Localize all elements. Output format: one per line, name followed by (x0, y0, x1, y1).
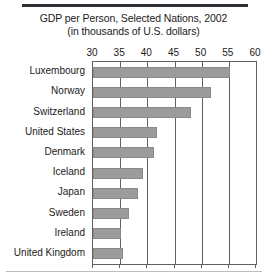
bar (93, 248, 123, 259)
chart-title-block: GDP per Person, Selected Nations, 2002 (… (0, 12, 267, 38)
chart-title: GDP per Person, Selected Nations, 2002 (0, 12, 267, 25)
y-category-label: United States (25, 126, 85, 138)
x-tick-label: 45 (168, 46, 179, 59)
y-category-label: Norway (51, 85, 85, 97)
x-axis-tick-labels: 30354045505560 (0, 46, 267, 59)
bar (93, 188, 138, 199)
x-tick-label: 50 (195, 46, 206, 59)
x-tick-label: 55 (222, 46, 233, 59)
bar (93, 228, 121, 239)
x-gridline (229, 62, 230, 264)
x-axis-tick-mark (201, 264, 202, 268)
bar (93, 67, 230, 78)
x-tick-label: 40 (141, 46, 152, 59)
chart-subtitle: (in thousands of U.S. dollars) (0, 25, 267, 38)
x-axis-tick-mark (255, 264, 256, 268)
bar (93, 168, 143, 179)
y-category-label: Sweden (49, 207, 85, 219)
plot-area (92, 61, 257, 265)
y-category-label: United Kingdom (14, 247, 85, 259)
top-divider-rule (22, 4, 248, 7)
x-tick-label: 30 (86, 46, 97, 59)
y-axis-category-labels: LuxembourgNorwaySwitzerlandUnited States… (0, 61, 88, 263)
x-axis-tick-mark (119, 264, 120, 268)
y-category-label: Luxembourg (29, 65, 85, 77)
chart-figure: GDP per Person, Selected Nations, 2002 (… (0, 0, 267, 278)
x-axis-tick-mark (146, 264, 147, 268)
x-tick-label: 60 (249, 46, 260, 59)
bar (93, 208, 129, 219)
x-axis-tick-mark (228, 264, 229, 268)
x-tick-label: 35 (114, 46, 125, 59)
y-category-label: Denmark (44, 146, 85, 158)
y-category-label: Iceland (53, 166, 85, 178)
x-axis-tick-mark (92, 264, 93, 268)
bottom-divider-rule (6, 271, 262, 272)
y-category-label: Japan (58, 186, 85, 198)
bar (93, 107, 191, 118)
x-axis-tick-mark (174, 264, 175, 268)
bar (93, 147, 154, 158)
y-category-label: Ireland (54, 227, 85, 239)
bar (93, 127, 157, 138)
bar (93, 87, 211, 98)
y-category-label: Switzerland (33, 106, 85, 118)
